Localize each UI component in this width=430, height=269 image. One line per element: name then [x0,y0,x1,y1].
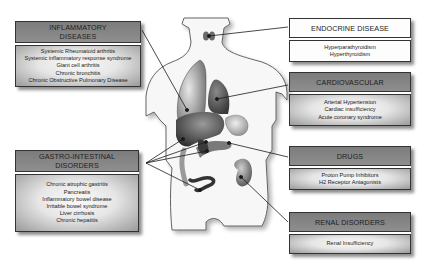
renal-disorders-box: RENAL DISORDERS Renal Insufficiency [289,212,411,254]
list-item: Inflammatory bowel disease [42,196,111,203]
endocrine-disease-header: ENDOCRINE DISEASE [289,18,411,38]
list-item: Liver cirrhosis [60,210,95,217]
gastro-intestinal-header: GASTRO-INTESTINAL DISORDERS [15,150,139,172]
gastro-title-line1: GASTRO-INTESTINAL [39,152,115,161]
renal-disorders-list: Renal Insufficiency [289,234,411,254]
endocrine-disease-list: Hyperparathyroidism Hyperthyroidism [289,40,411,62]
endocrine-title: ENDOCRINE DISEASE [311,24,389,33]
list-item: Chronic Obstructive Pulmonary Disease [28,77,127,84]
list-item: Arterial Hypertension [324,99,376,106]
list-item: Systemic Rheumatoid arthritis [41,48,115,55]
renal-disorders-header: RENAL DISORDERS [289,212,411,232]
list-item: Acute coronary syndrome [318,114,382,121]
list-item: Hyperthyroidism [330,51,370,58]
list-item: Hyperparathyroidism [324,44,376,51]
cardiovascular-box: CARDIOVASCULAR Arterial Hypertension Car… [289,72,411,126]
gastro-intestinal-disorders-box: GASTRO-INTESTINAL DISORDERS Chronic atro… [15,150,139,232]
list-item: Chronic bronchitis [56,70,101,77]
drugs-title: DRUGS [337,152,363,161]
drugs-box: DRUGS Proton Pump Inhibitors H2 Receptor… [289,146,411,190]
list-item: Chronic atrophic gastritis [46,181,108,188]
inflammatory-title-line1: INFLAMMATORY [49,23,107,32]
list-item: Chronic hepatitis [56,217,98,224]
cardiovascular-title: CARDIOVASCULAR [316,78,384,87]
gastro-title-line2: DISORDERS [55,161,99,170]
list-item: Pancreatis [64,189,90,196]
inflammatory-diseases-header: INFLAMMATORY DISEASES [15,21,141,43]
endocrine-disease-box: ENDOCRINE DISEASE Hyperparathyroidism Hy… [289,18,411,62]
list-item: Cardiac insufficiency [324,106,375,113]
list-item: Renal Insufficiency [327,240,374,247]
list-item: Irritable bowel syndrome [47,203,108,210]
drugs-list: Proton Pump Inhibitors H2 Receptor Antag… [289,168,411,190]
gastro-intestinal-list: Chronic atrophic gastritis Pancreatis In… [15,174,139,232]
renal-title: RENAL DISORDERS [315,218,385,227]
cardiovascular-header: CARDIOVASCULAR [289,72,411,92]
inflammatory-title-line2: DISEASES [60,32,97,41]
list-item: Proton Pump Inhibitors [322,172,379,179]
cardiovascular-list: Arterial Hypertension Cardiac insufficie… [289,94,411,126]
list-item: H2 Receptor Antagonists [319,179,381,186]
list-item: Systemic inflammatory response syndrome [25,55,132,62]
list-item: Giant cell arthritis [56,62,99,69]
drugs-header: DRUGS [289,146,411,166]
inflammatory-diseases-list: Systemic Rheumatoid arthritis Systemic i… [15,45,141,87]
inflammatory-diseases-box: INFLAMMATORY DISEASES Systemic Rheumatoi… [15,21,141,87]
